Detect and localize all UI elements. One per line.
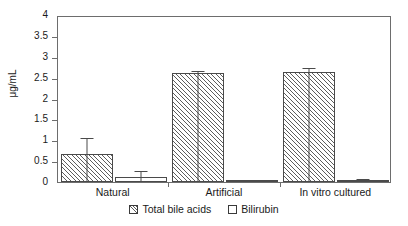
legend-swatch-white-icon: [228, 205, 237, 214]
error-bar: [337, 179, 389, 182]
bar-chart-figure: μg/mL 00.511.522.533.54 NaturalArtificia…: [0, 0, 408, 226]
y-axis-tick-label: 0.5: [34, 155, 48, 167]
y-axis-tick-label: 3.5: [34, 30, 48, 42]
plot-area: [57, 16, 391, 183]
y-axis-tick-label: 0: [42, 176, 48, 188]
chart-legend: Total bile acids Bilirubin: [0, 204, 408, 215]
y-axis-tick-label: 1.5: [34, 113, 48, 125]
error-bar-stem: [86, 138, 87, 182]
error-bar-stem: [198, 71, 199, 182]
bar-artificial-bilirubin: [226, 180, 278, 182]
error-bar-stem: [140, 171, 141, 182]
error-bar: [172, 71, 224, 182]
error-bar-cap: [80, 138, 93, 139]
error-bar-cap: [192, 71, 205, 72]
error-bar: [115, 171, 167, 182]
y-axis-tick-label: 3: [42, 51, 48, 63]
legend-item-bilirubin: Bilirubin: [228, 204, 278, 215]
error-bar-stem: [309, 68, 310, 182]
y-axis-title: μg/mL: [7, 54, 18, 114]
error-bar-cap: [357, 179, 370, 180]
legend-item-total-bile-acids: Total bile acids: [129, 204, 211, 215]
y-axis-tick-label: 1: [42, 134, 48, 146]
error-bar: [61, 138, 113, 182]
y-axis-tick-label: 2.5: [34, 72, 48, 84]
error-bar: [283, 68, 335, 182]
x-axis-category-label: Artificial: [168, 186, 279, 198]
legend-swatch-hatched-icon: [129, 205, 138, 214]
legend-label: Total bile acids: [142, 204, 211, 215]
y-axis-tick-label: 4: [42, 9, 48, 21]
x-axis-category-label: In vitro cultured: [280, 186, 391, 198]
x-axis-category-label: Natural: [57, 186, 168, 198]
error-bar-cap: [134, 171, 147, 172]
error-bar-cap: [303, 68, 316, 69]
legend-label: Bilirubin: [241, 204, 278, 215]
y-axis-tick-label: 2: [42, 93, 48, 105]
